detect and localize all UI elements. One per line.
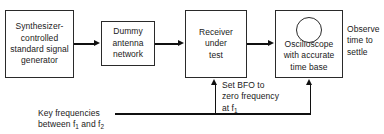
block-scope-line-2: with accurate <box>284 50 335 61</box>
block-dummy-line-2: antenna <box>112 38 143 49</box>
annotation-observe-line-2: time to <box>347 35 379 46</box>
annotation-bfo-line-3-text: at f <box>222 103 234 113</box>
block-dummy-antenna-network: Dummy antenna network <box>101 21 155 66</box>
arrowhead-dummy-to-receiver <box>178 40 184 46</box>
arrowhead-bus-to-oscilloscope <box>306 79 312 85</box>
block-synthesizer-line-4: generator <box>21 55 58 66</box>
arrowhead-synthesizer-to-dummy <box>94 40 100 46</box>
annotation-set-bfo: Set BFO to zero frequency at f1 <box>222 80 279 114</box>
block-receiver-line-3: test <box>209 50 223 61</box>
annotation-key-subscript-2: 2 <box>101 123 105 130</box>
connector-bus-to-receiver-riser <box>215 85 217 114</box>
block-receiver-line-2: under <box>205 38 227 49</box>
annotation-bfo-subscript: 1 <box>234 107 238 114</box>
annotation-key-frequencies: Key frequencies between f1 and f2 <box>38 108 104 131</box>
block-synthesizer-line-1: Synthesizer- <box>16 21 64 32</box>
annotation-key-subscript-1: 1 <box>75 123 79 130</box>
connector-key-frequencies-bus <box>115 113 311 115</box>
block-synthesizer-line-3: standard signal <box>10 44 68 55</box>
annotation-observe-line-3: settle <box>347 47 379 58</box>
annotation-observe-time-to-settle: Observe time to settle <box>347 24 379 58</box>
block-dummy-line-3: network <box>113 49 143 60</box>
arrowhead-bus-to-receiver <box>211 79 217 85</box>
annotation-bfo-line-3: at f1 <box>222 103 279 114</box>
oscilloscope-crt-screen-icon <box>296 17 322 43</box>
annotation-key-between-text: between f <box>38 119 75 129</box>
block-receiver-line-1: Receiver <box>199 27 233 38</box>
annotation-observe-line-1: Observe <box>347 24 379 35</box>
connector-bus-to-oscilloscope-riser <box>310 85 312 114</box>
block-scope-line-3: time base <box>290 62 327 73</box>
annotation-key-and-text: and f <box>79 119 101 129</box>
block-dummy-line-1: Dummy <box>113 26 143 37</box>
connector-synthesizer-to-dummy <box>74 43 94 45</box>
block-oscilloscope-with-accurate-time-base: Oscilloscope with accurate time base <box>275 10 343 78</box>
annotation-key-line-1: Key frequencies <box>38 108 104 119</box>
annotation-bfo-line-1: Set BFO to <box>222 80 279 91</box>
block-diagram: Synthesizer- controlled standard signal … <box>0 0 384 134</box>
annotation-key-line-2: between f1 and f2 <box>38 119 104 130</box>
connector-dummy-to-receiver <box>155 43 178 45</box>
arrowhead-receiver-to-oscilloscope <box>268 40 274 46</box>
connector-receiver-to-oscilloscope <box>247 43 268 45</box>
block-synthesizer-line-2: controlled <box>21 33 58 44</box>
block-receiver-under-test: Receiver under test <box>185 10 247 78</box>
block-synthesizer-controlled-standard-signal-generator: Synthesizer- controlled standard signal … <box>5 10 74 78</box>
annotation-bfo-line-2: zero frequency <box>222 91 279 102</box>
